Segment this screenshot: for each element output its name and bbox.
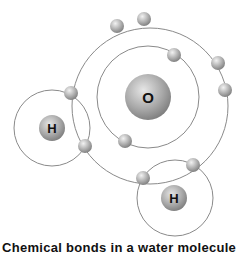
- electron: [136, 171, 150, 185]
- caption: Chemical bonds in a water molecule: [2, 240, 244, 255]
- electron: [137, 12, 151, 26]
- electron: [211, 56, 225, 70]
- oxygen-label: O: [142, 89, 154, 106]
- electron: [167, 48, 181, 62]
- electron: [64, 86, 78, 100]
- electron: [78, 139, 92, 153]
- oxygen-atom: O: [125, 74, 171, 120]
- hydrogen-left-label: H: [47, 121, 56, 136]
- electron: [218, 83, 232, 97]
- hydrogen-left-atom: H: [39, 115, 65, 141]
- hydrogen-right-label: H: [169, 191, 178, 206]
- hydrogen-right-atom: H: [161, 185, 187, 211]
- electron: [186, 158, 200, 172]
- electron: [118, 134, 132, 148]
- electron: [110, 19, 124, 33]
